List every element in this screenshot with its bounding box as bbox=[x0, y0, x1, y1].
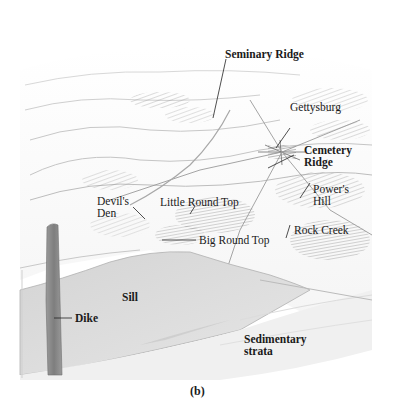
label-gettysburg: Gettysburg bbox=[290, 101, 341, 113]
label-rock-creek: Rock Creek bbox=[294, 224, 349, 236]
label-sedimentary-strata: Sedimentary strata bbox=[244, 333, 307, 357]
label-seminary-ridge: Seminary Ridge bbox=[225, 48, 304, 60]
label-powers-hill: Power's Hill bbox=[313, 183, 349, 207]
label-little-round-top: Little Round Top bbox=[160, 196, 239, 208]
label-dike: Dike bbox=[75, 312, 98, 324]
label-sill: Sill bbox=[122, 291, 138, 303]
figure-caption: (b) bbox=[190, 384, 205, 399]
label-big-round-top: Big Round Top bbox=[199, 234, 270, 246]
geology-block-diagram: Seminary Ridge Gettysburg Cemetery Ridge… bbox=[0, 0, 395, 414]
label-cemetery-ridge: Cemetery Ridge bbox=[304, 144, 352, 168]
label-devils-den: Devil's Den bbox=[97, 195, 129, 219]
